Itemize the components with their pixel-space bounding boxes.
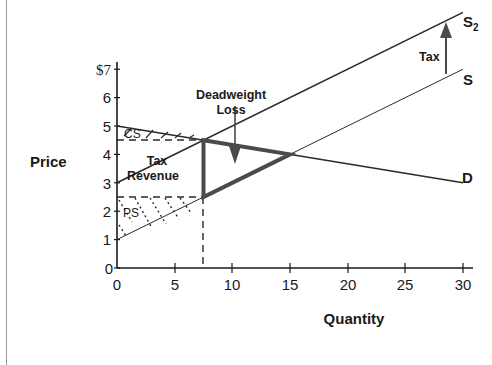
- y-axis-title: Price: [30, 153, 67, 170]
- tax-revenue-label-line1: Tax: [147, 154, 168, 168]
- chart: 0 1 2 3 4 5 6 $7 0 5 10 15 20 25 30 CS P…: [0, 0, 492, 365]
- y-tick-3: 3: [103, 175, 111, 192]
- dwl-arrow-head: [229, 146, 241, 164]
- dwl-label-line1: Deadweight: [196, 88, 267, 102]
- x-axis-title: Quantity: [324, 310, 385, 327]
- tax-label: Tax: [419, 50, 440, 64]
- y-tick-2: 2: [103, 203, 111, 220]
- s2-label: S2: [463, 13, 479, 33]
- x-tick-25: 25: [397, 276, 414, 293]
- tax-revenue-label-line2: Revenue: [127, 169, 179, 183]
- y-tick-1: 1: [103, 231, 111, 248]
- x-tick-5: 5: [171, 276, 179, 293]
- x-tick-labels: 0 5 10 15 20 25 30: [113, 276, 472, 293]
- supply-with-tax-curve: [117, 12, 463, 182]
- x-tick-20: 20: [340, 276, 357, 293]
- tax-arrow-head: [440, 22, 452, 38]
- x-tick-15: 15: [282, 276, 299, 293]
- x-tick-30: 30: [455, 276, 472, 293]
- x-tick-10: 10: [224, 276, 241, 293]
- ps-label: PS: [123, 206, 139, 220]
- y-tick-5: 5: [103, 118, 111, 135]
- axes: [117, 62, 473, 268]
- y-tick-labels: 0 1 2 3 4 5 6 $7: [96, 62, 113, 277]
- s-label: S: [463, 71, 473, 88]
- y-tick-6: 6: [103, 89, 111, 106]
- dwl-label-line2: Loss: [216, 103, 245, 117]
- y-tick-0: 0: [105, 260, 113, 277]
- y-tick-4: 4: [103, 146, 111, 163]
- d-label: D: [462, 169, 473, 186]
- deadweight-loss-triangle: [204, 140, 291, 197]
- cs-label: CS: [124, 127, 141, 141]
- y-tick-7: $7: [96, 62, 112, 78]
- x-tick-0: 0: [113, 276, 121, 293]
